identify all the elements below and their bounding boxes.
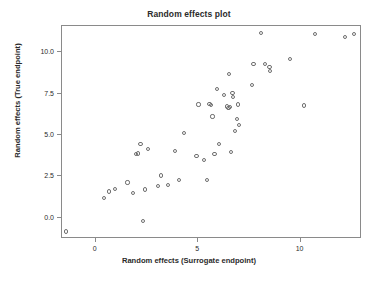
- data-point: [210, 114, 214, 118]
- y-tick-mark: [57, 134, 61, 135]
- scatter-plot-figure: Random effects plot Random effects (True…: [0, 0, 378, 281]
- data-point: [222, 93, 226, 97]
- x-tick-label: 10: [296, 245, 304, 252]
- data-point: [229, 150, 233, 154]
- data-point: [233, 129, 237, 133]
- x-tick-mark: [95, 238, 96, 242]
- data-point: [212, 152, 216, 156]
- data-point: [141, 219, 145, 223]
- data-point: [288, 57, 292, 61]
- data-point: [227, 72, 231, 76]
- data-points-layer: [62, 26, 360, 237]
- data-point: [231, 95, 235, 99]
- data-point: [173, 149, 177, 153]
- data-point: [166, 183, 170, 187]
- data-point: [136, 151, 140, 155]
- data-point: [302, 103, 306, 107]
- data-point: [156, 184, 160, 188]
- data-point: [205, 178, 209, 182]
- data-point: [146, 147, 150, 151]
- data-point: [235, 117, 239, 121]
- data-point: [194, 154, 198, 158]
- data-point: [177, 178, 181, 182]
- plot-area: [61, 25, 361, 238]
- x-axis-title: Random effects (Surrogate endpoint): [0, 256, 378, 265]
- y-axis-title: Random effects (True endpoint): [13, 16, 22, 186]
- y-tick-label: 5.0: [3, 130, 54, 137]
- data-point: [263, 62, 267, 66]
- data-point: [131, 191, 135, 195]
- y-tick-label: 7.5: [3, 89, 54, 96]
- data-point: [343, 35, 347, 39]
- data-point: [202, 158, 206, 162]
- data-point: [209, 103, 213, 107]
- y-tick-mark: [57, 93, 61, 94]
- data-point: [182, 131, 186, 135]
- data-point: [236, 102, 240, 106]
- data-point: [102, 196, 106, 200]
- data-point: [313, 32, 317, 36]
- data-point: [217, 142, 221, 146]
- data-point: [215, 87, 219, 91]
- data-point: [196, 102, 200, 106]
- data-point: [237, 123, 241, 127]
- y-tick-label: 10.0: [3, 48, 54, 55]
- x-tick-mark: [197, 238, 198, 242]
- data-point: [251, 62, 255, 66]
- data-point: [64, 229, 68, 233]
- x-tick-mark: [300, 238, 301, 242]
- data-point: [250, 83, 254, 87]
- y-tick-label: 0.0: [3, 213, 54, 220]
- x-tick-label: 0: [93, 245, 97, 252]
- y-tick-mark: [57, 217, 61, 218]
- y-tick-mark: [57, 175, 61, 176]
- data-point: [159, 173, 163, 177]
- data-point: [113, 187, 117, 191]
- y-tick-label: 2.5: [3, 172, 54, 179]
- data-point: [107, 189, 111, 193]
- data-point: [125, 180, 129, 184]
- page-title: Random effects plot: [0, 9, 378, 19]
- y-tick-mark: [57, 51, 61, 52]
- data-point: [143, 187, 147, 191]
- data-point: [352, 32, 356, 36]
- data-point: [228, 105, 232, 109]
- data-point: [138, 142, 142, 146]
- data-point: [268, 69, 272, 73]
- data-point: [259, 31, 263, 35]
- x-tick-label: 5: [195, 245, 199, 252]
